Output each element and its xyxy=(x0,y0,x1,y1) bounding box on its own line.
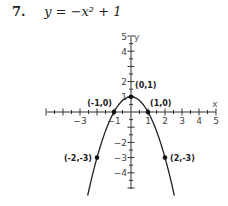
point-marker xyxy=(163,155,168,160)
y-tick-label: −2 xyxy=(114,138,127,148)
y-axis-label: y xyxy=(134,32,140,42)
parabola-plot: −3−1123455421−2−3−4xy (0,1)(-1,0)(1,0)(-… xyxy=(0,0,228,206)
point-marker xyxy=(146,110,151,115)
point-label: (-1,0) xyxy=(87,99,112,108)
point-marker xyxy=(112,110,117,115)
point-label: (-2,-3) xyxy=(64,154,92,163)
point-label: (1,0) xyxy=(150,99,171,108)
point-label: (0,1) xyxy=(135,81,156,90)
x-tick-label: 1 xyxy=(145,116,151,126)
point-marker xyxy=(95,155,100,160)
y-tick-label: 2 xyxy=(121,77,127,87)
point-marker xyxy=(129,95,134,100)
x-tick-label: −3 xyxy=(73,116,86,126)
y-tick-label: 4 xyxy=(121,47,127,57)
y-tick-label: −3 xyxy=(114,153,127,163)
x-tick-label: 5 xyxy=(213,116,219,126)
axes: −3−1123455421−2−3−4xy xyxy=(46,32,219,190)
y-tick-label: 5 xyxy=(121,32,127,42)
x-tick-label: 3 xyxy=(179,116,185,126)
x-axis-label: x xyxy=(212,99,218,109)
x-tick-label: 4 xyxy=(196,116,202,126)
y-tick-label: −4 xyxy=(114,168,128,178)
point-label: (2,-3) xyxy=(170,154,195,163)
x-tick-label: 2 xyxy=(162,116,168,126)
